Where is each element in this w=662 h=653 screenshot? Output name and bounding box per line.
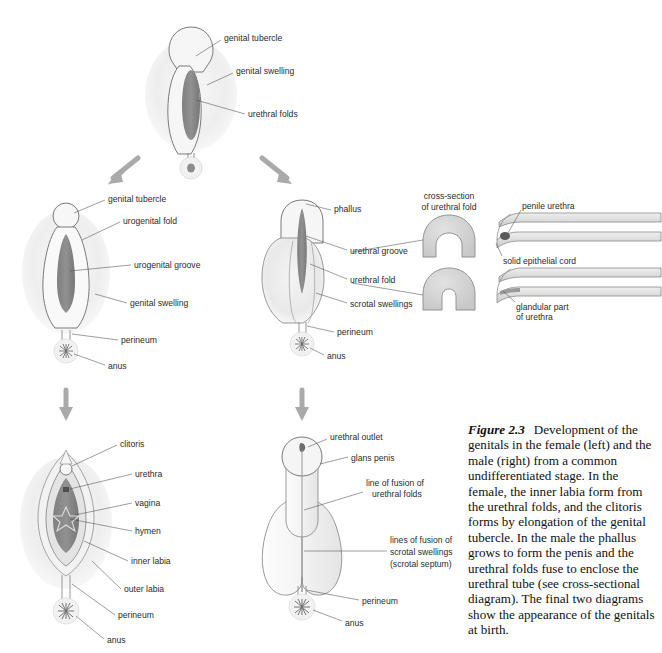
label-mi-perineum: perineum [337,327,373,337]
leader-ff-clitoris [72,445,117,466]
urethral-folds-groove [182,70,200,140]
label-cross-section-line2: of urethral fold [422,202,477,212]
label-mf-scrotal-swellings: scrotal swellings [390,547,453,557]
label-ff-anus: anus [107,635,126,645]
label-ff-urethra: urethra [135,469,162,479]
label-mi-anus: anus [327,351,346,361]
label-mi-urethral-fold: urethral fold [350,275,396,285]
label-ff-inner-labia: inner labia [131,556,171,566]
leader-mf-anus [313,610,342,621]
label-ff-outer-labia: outer labia [124,584,164,594]
glandular-section-upper [499,268,661,282]
label-fi-perineum: perineum [121,335,157,345]
glandular-section-lower [497,287,661,303]
figure-number: Figure 2.3 [468,422,525,437]
panel-male-intermediate: phallus urethral groove urethral fold sc… [262,200,413,361]
penis-tip-section-upper [499,213,661,227]
label-fi-urogenital-groove: urogenital groove [134,260,201,270]
label-mf-glans-penis: glans penis [351,453,394,463]
panel-female-final: clitoris urethra vagina hymen inner labi… [20,439,171,645]
leader-mi-perineum [307,326,334,332]
label-fi-anus: anus [108,361,127,371]
label-cross-section-line1: cross-section [424,191,475,201]
panel-undifferentiated-stage: genital tubercle genital swelling urethr… [145,27,298,179]
label-mf-urethral-folds: urethral folds [372,489,422,499]
figure-caption: Figure 2.3Development of the genitals in… [468,422,660,638]
label-mi-phallus: phallus [334,204,361,214]
label-penile-urethra: penile urethra [522,201,575,211]
leader-ff-outer-labia [92,561,121,589]
panel-urethra-formation: penile urethra solid epithelial cord gla… [496,201,661,322]
leader-mf-glans-penis [320,457,348,464]
label-glandular-part: glandular part [516,302,569,312]
arrow-female-final-head [59,407,73,421]
urethra-opening [63,487,69,492]
label-mf-line-of-fusion: line of fusion of [366,478,424,488]
anus-icon [187,164,195,173]
panel-male-final: urethral outlet glans penis line of fusi… [262,432,452,628]
cross-section-open-shape [423,215,475,257]
leader-mi-anus [310,348,324,355]
genital-tubercle-knob [53,203,79,229]
label-mf-perineum: perineum [362,596,398,606]
label-solid-epithelial-cord: solid epithelial cord [503,256,576,266]
label-mf-lines-of-fusion: lines of fusion of [390,535,453,545]
label-ff-hymen: hymen [135,526,161,536]
figure-caption-text: Development of the genitals in the femal… [468,422,655,637]
penis-tip-section-lower [497,232,661,248]
label-glandular-part-cont: of urethra [516,312,553,322]
clitoris-shape [60,463,72,475]
label-ff-vagina: vagina [135,498,161,508]
label-genital-swelling: genital swelling [236,66,295,76]
label-ff-clitoris: clitoris [120,439,144,449]
arrow-group-to-final [59,390,309,421]
leader-fi-anus [74,354,105,365]
label-mf-scrotal-septum: (scrotal septum) [390,559,452,569]
label-mf-anus: anus [345,618,364,628]
label-urethral-folds: urethral folds [248,109,298,119]
panel-female-intermediate: genital tubercle urogenital fold urogeni… [22,194,201,371]
penile-urethra-lumen [500,232,510,240]
leader-ff-anus [76,616,104,639]
label-genital-tubercle: genital tubercle [224,33,283,43]
leader-fi-perineum [72,334,118,340]
label-fi-genital-tubercle: genital tubercle [108,194,167,204]
arrow-male-final-head [295,407,309,421]
label-fi-genital-swelling: genital swelling [130,298,189,308]
label-mi-scrotal-swellings: scrotal swellings [350,299,413,309]
leader-fi-genital-tubercle [74,200,105,213]
cross-section-closing-shape [423,268,475,310]
label-fi-urogenital-fold: urogenital fold [123,216,177,226]
label-ff-perineum: perineum [118,610,154,620]
label-mf-urethral-outlet: urethral outlet [330,432,383,442]
